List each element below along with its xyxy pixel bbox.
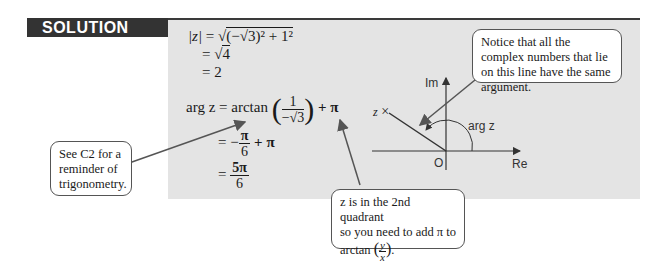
real-axis-label: Re [512, 157, 527, 171]
quadrant-line-1: z is in the 2nd quadrant [340, 195, 456, 225]
callout-trigonometry: See C2 for a reminder of trigonometry. [50, 141, 132, 196]
quadrant-line-3: arctan (yx). [340, 240, 456, 263]
imaginary-axis-label: Im [425, 76, 438, 90]
arg-label: arg z [468, 119, 495, 133]
quadrant-fraction: yx [379, 240, 386, 263]
callout-quadrant: z is in the 2nd quadrant so you need to … [331, 189, 465, 249]
point-z-label: z [373, 105, 378, 119]
callout-same-argument: Notice that all the complex numbers that… [472, 29, 622, 83]
point-z-marker: × [381, 104, 389, 119]
quadrant-line-2: so you need to add π to [340, 225, 456, 240]
origin-label: O [434, 156, 443, 170]
point-z: z × [373, 104, 389, 120]
